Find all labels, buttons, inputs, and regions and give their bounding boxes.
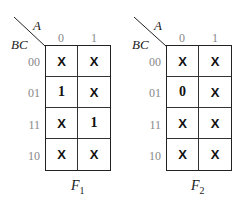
function-label: F2: [191, 178, 205, 196]
row-header-10: 10: [137, 149, 161, 164]
function-label: F1: [71, 178, 85, 196]
cell-10-1: X: [199, 139, 231, 170]
function-subscript: 1: [80, 185, 85, 196]
row-header-01: 01: [16, 86, 40, 101]
row-header-10: 10: [16, 149, 40, 164]
cell-00-1: X: [78, 46, 110, 77]
row-header-01: 01: [137, 86, 161, 101]
kmap-f2: A BC 0 1 00 01 11 10 X X 0 X X X X X F2: [121, 0, 246, 205]
cell-00-0: X: [167, 46, 199, 77]
row-header-11: 11: [16, 118, 40, 133]
cell-10-0: X: [46, 139, 78, 170]
column-variable-label: A: [154, 18, 162, 34]
cell-00-0: X: [46, 46, 78, 77]
cell-01-0: 1: [46, 77, 78, 108]
cell-11-0: X: [167, 108, 199, 139]
column-header-1: 1: [199, 31, 231, 46]
cell-10-1: X: [78, 139, 110, 170]
cell-01-1: X: [78, 77, 110, 108]
column-variable-label: A: [33, 18, 41, 34]
cell-01-0: 0: [167, 77, 199, 108]
row-header-00: 00: [16, 55, 40, 70]
row-header-11: 11: [137, 118, 161, 133]
cell-00-1: X: [199, 46, 231, 77]
column-header-0: 0: [166, 31, 198, 46]
kmap-grid: X X 1 X X 1 X X: [45, 45, 111, 171]
function-name: F: [71, 178, 80, 193]
cell-10-0: X: [167, 139, 199, 170]
row-variable-label: BC: [11, 37, 28, 53]
column-header-1: 1: [78, 31, 110, 46]
cell-01-1: X: [199, 77, 231, 108]
row-variable-label: BC: [132, 37, 149, 53]
row-header-00: 00: [137, 55, 161, 70]
function-name: F: [191, 178, 200, 193]
function-subscript: 2: [200, 185, 205, 196]
kmap-grid: X X 0 X X X X X: [166, 45, 232, 171]
cell-11-0: X: [46, 108, 78, 139]
cell-11-1: X: [199, 108, 231, 139]
kmap-f1: A BC 0 1 00 01 11 10 X X 1 X X 1 X X F1: [0, 0, 125, 205]
cell-11-1: 1: [78, 108, 110, 139]
column-header-0: 0: [45, 31, 77, 46]
